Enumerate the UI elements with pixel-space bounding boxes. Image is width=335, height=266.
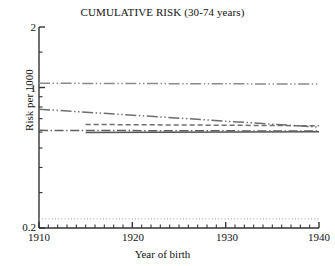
data-series-group bbox=[39, 83, 319, 219]
x-tick-marks bbox=[39, 222, 319, 228]
series-dash-dot-flat-line bbox=[39, 130, 319, 131]
series-declining-line bbox=[39, 109, 319, 127]
y-tick-marks bbox=[39, 27, 45, 228]
axis-spines bbox=[39, 27, 319, 228]
series-solid-flat-line bbox=[86, 132, 319, 133]
series-upper-flat-line bbox=[39, 83, 319, 84]
